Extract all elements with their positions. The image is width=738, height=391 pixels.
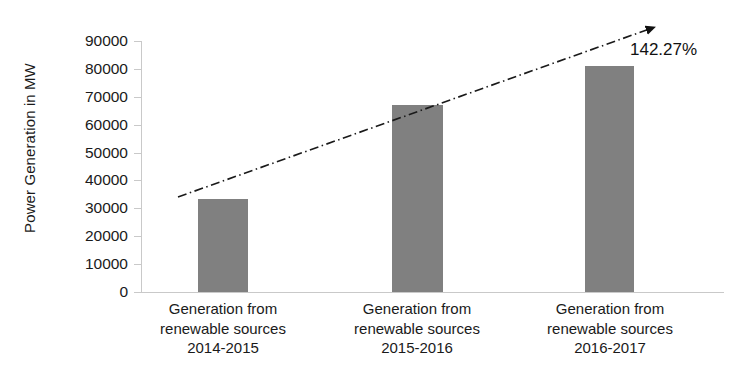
y-axis-tick-mark bbox=[134, 125, 141, 126]
x-axis-category-label: Generation fromrenewable sources2015-201… bbox=[322, 299, 512, 358]
y-axis-tick-label: 60000 bbox=[52, 117, 128, 133]
bar bbox=[392, 105, 443, 292]
y-axis-tick-mark bbox=[134, 236, 141, 237]
y-axis-tick-mark bbox=[134, 264, 141, 265]
category-label-line: 2015-2016 bbox=[322, 338, 512, 358]
category-label-line: renewable sources bbox=[128, 319, 318, 339]
category-label-line: renewable sources bbox=[322, 319, 512, 339]
category-label-line: 2014-2015 bbox=[128, 338, 318, 358]
y-axis-tick-label: 10000 bbox=[52, 256, 128, 272]
y-axis-tick-label: 70000 bbox=[52, 89, 128, 105]
category-label-line: renewable sources bbox=[515, 319, 705, 339]
y-axis-line bbox=[141, 41, 142, 292]
bar bbox=[198, 199, 248, 292]
growth-percentage-annotation: 142.27% bbox=[630, 41, 697, 58]
category-label-line: Generation from bbox=[128, 299, 318, 319]
category-label-line: Generation from bbox=[515, 299, 705, 319]
y-axis-tick-label: 90000 bbox=[52, 33, 128, 49]
x-axis-category-label: Generation fromrenewable sources2014-201… bbox=[128, 299, 318, 358]
y-axis-tick-mark bbox=[134, 41, 141, 42]
y-axis-tick-label: 30000 bbox=[52, 201, 128, 217]
y-axis-tick-label: 20000 bbox=[52, 228, 128, 244]
chart-figure: Power Generation in MW 01000020000300004… bbox=[0, 0, 738, 391]
category-label-line: 2016-2017 bbox=[515, 338, 705, 358]
y-axis-tick-label: 0 bbox=[52, 284, 128, 300]
bar bbox=[585, 66, 634, 292]
y-axis-tick-mark bbox=[134, 180, 141, 181]
y-axis-tick-mark bbox=[134, 153, 141, 154]
y-axis-tick-mark bbox=[134, 97, 141, 98]
y-axis-tick-label: 40000 bbox=[52, 173, 128, 189]
y-axis-tick-labels: 0100002000030000400005000060000700008000… bbox=[52, 0, 128, 391]
y-axis-tick-label: 50000 bbox=[52, 145, 128, 161]
category-label-line: Generation from bbox=[322, 299, 512, 319]
x-axis-line bbox=[141, 292, 724, 293]
x-axis-category-label: Generation fromrenewable sources2016-201… bbox=[515, 299, 705, 358]
y-axis-tick-mark bbox=[134, 292, 141, 293]
y-axis-tick-mark bbox=[134, 208, 141, 209]
y-axis-tick-label: 80000 bbox=[52, 61, 128, 77]
y-axis-title: Power Generation in MW bbox=[12, 0, 46, 298]
y-axis-tick-mark bbox=[134, 69, 141, 70]
